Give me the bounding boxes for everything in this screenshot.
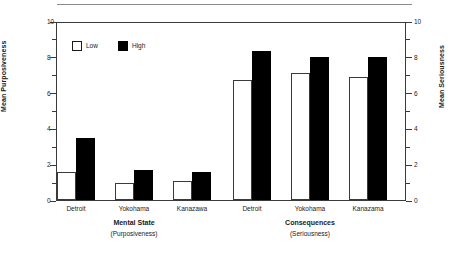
bar-low-detroit-g1 xyxy=(233,80,252,200)
figure: Mean Purposiveness Mean Seriousness 0022… xyxy=(0,0,452,254)
bar-high-detroit-g1 xyxy=(252,51,271,200)
tick-right-0 xyxy=(406,201,412,202)
tick-right-2 xyxy=(406,165,412,166)
group-title-main-0: Mental State xyxy=(74,218,194,227)
minor-tick-left-7 xyxy=(52,75,56,76)
category-label-yokohama-g0: Yokohama xyxy=(108,205,160,213)
group-title-sub-1: (Seriousness) xyxy=(250,229,370,238)
y-axis-right-title: Mean Seriousness xyxy=(438,45,445,108)
category-label-kanazawa-g0: Kanazawa xyxy=(166,205,218,213)
bar-high-kanazawa-g0 xyxy=(192,172,211,200)
top-divider-rule xyxy=(57,4,412,5)
legend-swatch-low-icon xyxy=(72,41,82,51)
minor-tick-right-7 xyxy=(406,75,410,76)
group-title-main-1: Consequences xyxy=(250,218,370,227)
bar-low-yokohama-g1 xyxy=(291,73,310,200)
minor-tick-right-9 xyxy=(406,39,410,40)
minor-tick-left-5 xyxy=(52,111,56,112)
legend-label-high: High xyxy=(132,42,145,50)
bar-high-yokohama-g1 xyxy=(310,57,329,200)
tick-right-6 xyxy=(406,93,412,94)
bar-high-detroit-g0 xyxy=(76,138,95,200)
minor-tick-left-1 xyxy=(52,183,56,184)
bar-low-kanazama-g1 xyxy=(349,77,368,201)
tick-label-right-2: 2 xyxy=(414,161,418,168)
group-title-0: Mental State(Purposiveness) xyxy=(74,218,194,238)
category-label-yokohama-g1: Yokohama xyxy=(284,205,336,213)
tick-label-right-10: 10 xyxy=(414,18,421,25)
bar-low-detroit-g0 xyxy=(57,172,76,200)
legend-swatch-high-icon xyxy=(118,41,128,51)
bar-high-kanazama-g1 xyxy=(368,57,387,200)
chart-legend: Low High xyxy=(72,41,145,51)
bar-low-yokohama-g0 xyxy=(115,183,134,200)
tick-right-4 xyxy=(406,129,412,130)
minor-tick-right-5 xyxy=(406,111,410,112)
tick-right-8 xyxy=(406,57,412,58)
group-title-sub-0: (Purposiveness) xyxy=(74,229,194,238)
minor-tick-left-9 xyxy=(52,39,56,40)
legend-entry-low: Low xyxy=(72,41,98,51)
legend-entry-high: High xyxy=(118,41,145,51)
category-label-kanazama-g1: Kanazama xyxy=(342,205,394,213)
minor-tick-left-3 xyxy=(52,147,56,148)
tick-label-right-4: 4 xyxy=(414,125,418,132)
minor-tick-right-3 xyxy=(406,147,410,148)
tick-label-right-8: 8 xyxy=(414,54,418,61)
group-title-1: Consequences(Seriousness) xyxy=(250,218,370,238)
category-label-detroit-g1: Detroit xyxy=(226,205,278,213)
bar-high-yokohama-g0 xyxy=(134,170,153,200)
bar-low-kanazawa-g0 xyxy=(173,181,192,200)
category-label-detroit-g0: Detroit xyxy=(50,205,102,213)
minor-tick-right-1 xyxy=(406,183,410,184)
legend-label-low: Low xyxy=(86,42,98,50)
tick-label-right-0: 0 xyxy=(414,197,418,204)
tick-label-right-6: 6 xyxy=(414,90,418,97)
y-axis-left-title: Mean Purposiveness xyxy=(0,41,7,112)
tick-right-10 xyxy=(406,22,412,23)
